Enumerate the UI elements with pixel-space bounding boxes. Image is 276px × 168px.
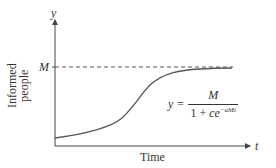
asymptote-label: M <box>39 60 49 75</box>
y-title-line2: people <box>18 63 30 108</box>
denominator-prefix: 1 + <box>190 106 209 120</box>
denominator-exponent: −aMt <box>220 106 236 114</box>
x-axis-label: t <box>255 139 258 154</box>
equation-numerator: M <box>206 88 220 104</box>
y-axis-label: y <box>51 6 56 21</box>
equation-denominator: 1 + ce−aMt <box>188 104 237 121</box>
equation: y = M 1 + ce−aMt <box>168 88 238 121</box>
y-title: Informed people <box>6 63 30 108</box>
x-title: Time <box>140 150 165 165</box>
equation-lhs: y = <box>168 97 184 112</box>
equation-fraction: M 1 + ce−aMt <box>188 88 237 121</box>
denominator-base: ce <box>209 106 220 120</box>
logistic-diagram <box>0 0 276 168</box>
